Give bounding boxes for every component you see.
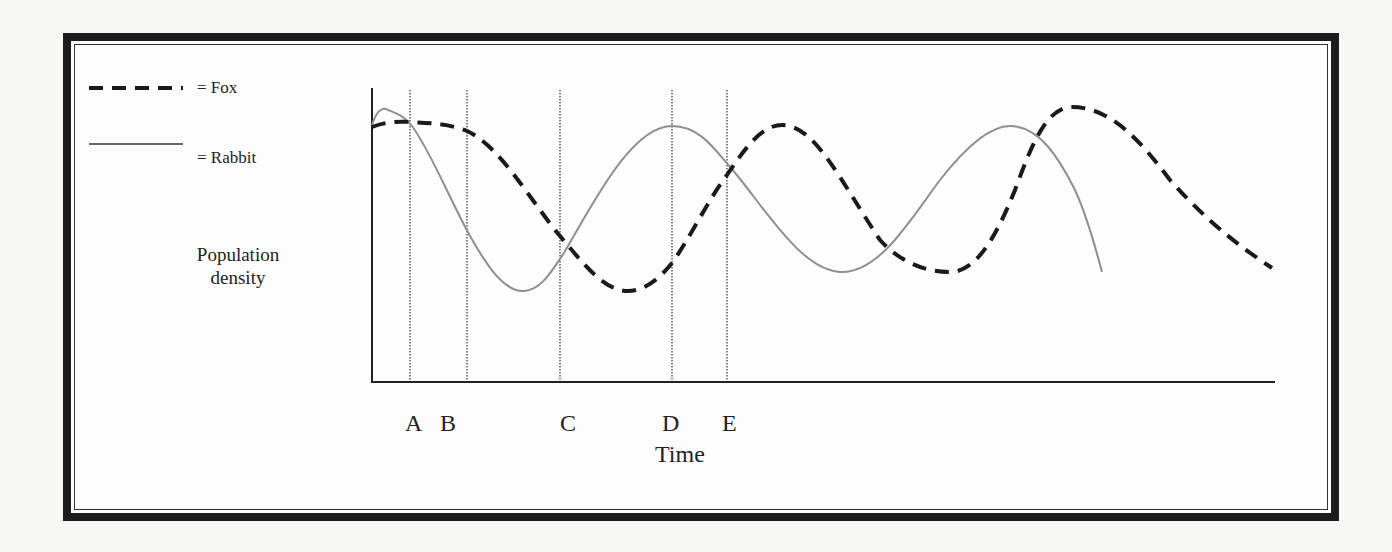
time-marker-label-a: A <box>405 411 422 435</box>
y-axis-label: Population density <box>178 244 298 290</box>
time-marker-label-b: B <box>440 411 456 435</box>
time-marker-lines <box>410 90 727 381</box>
legend-fox-label: = Fox <box>197 79 237 96</box>
time-marker-label-d: D <box>662 411 679 435</box>
y-axis-label-line2: density <box>178 267 298 290</box>
legend-rabbit-label: = Rabbit <box>197 149 256 166</box>
x-axis-label: Time <box>655 442 705 466</box>
time-marker-label-e: E <box>722 411 737 435</box>
y-axis-label-line1: Population <box>178 244 298 267</box>
fox-series-line <box>372 107 1272 291</box>
rabbit-series-line <box>372 109 1102 291</box>
time-marker-label-c: C <box>560 411 576 435</box>
